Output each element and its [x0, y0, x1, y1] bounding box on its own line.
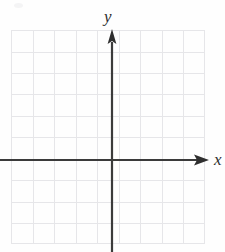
y-axis-label: y: [104, 8, 112, 25]
x-axis-label: x: [214, 151, 222, 168]
axes-group: [0, 0, 225, 252]
y-axis-arrowhead: [108, 29, 117, 44]
coordinate-plane-figure: y x: [0, 0, 225, 252]
